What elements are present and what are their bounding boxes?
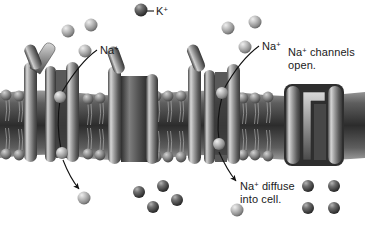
label-sodium-left: Na+: [100, 44, 119, 57]
ion-sodium-inside: [78, 192, 91, 205]
label-potassium: K+: [156, 5, 168, 18]
membrane-illustration: [0, 0, 365, 230]
arrow-diffuse-left: [63, 160, 79, 189]
ion-sodium-outside: [79, 45, 92, 58]
ion-sodium-in-channel: [213, 138, 225, 150]
ion-inside-dark: [302, 180, 314, 192]
ion-sodium-outside: [85, 19, 98, 32]
ion-sodium-in-channel: [56, 147, 68, 159]
ion-sodium-outside: [249, 16, 262, 29]
ion-inside-dark: [147, 201, 159, 213]
channel-protein-4-open[interactable]: [284, 84, 344, 166]
ion-sodium-outside: [239, 41, 252, 54]
channel-protein-2[interactable]: [106, 45, 158, 164]
ion-inside-dark: [328, 180, 340, 192]
label-channels-open: Na+ channelsopen.: [288, 46, 355, 71]
ion-sodium-in-channel: [54, 91, 66, 103]
label-sodium-diffuse: Na+ diffuseinto cell.: [240, 180, 295, 205]
ion-inside-dark: [133, 186, 145, 198]
ion-inside-dark: [171, 194, 183, 206]
ion-sodium-outside: [222, 22, 235, 35]
ion-inside-dark: [302, 202, 314, 214]
ion-potassium: [135, 4, 148, 17]
ion-sodium-in-channel: [216, 87, 228, 99]
figure-canvas: K+ Na+ Na+ Na+ channelsopen. Na+ diffuse…: [0, 0, 365, 230]
ion-sodium-inside: [231, 204, 244, 217]
label-sodium-right: Na+: [262, 40, 281, 53]
channel-protein-1[interactable]: [23, 43, 79, 162]
ion-inside-dark: [157, 180, 169, 192]
channel-protein-3[interactable]: [185, 43, 240, 164]
ion-inside-dark: [328, 202, 340, 214]
ion-sodium-outside: [62, 25, 75, 38]
